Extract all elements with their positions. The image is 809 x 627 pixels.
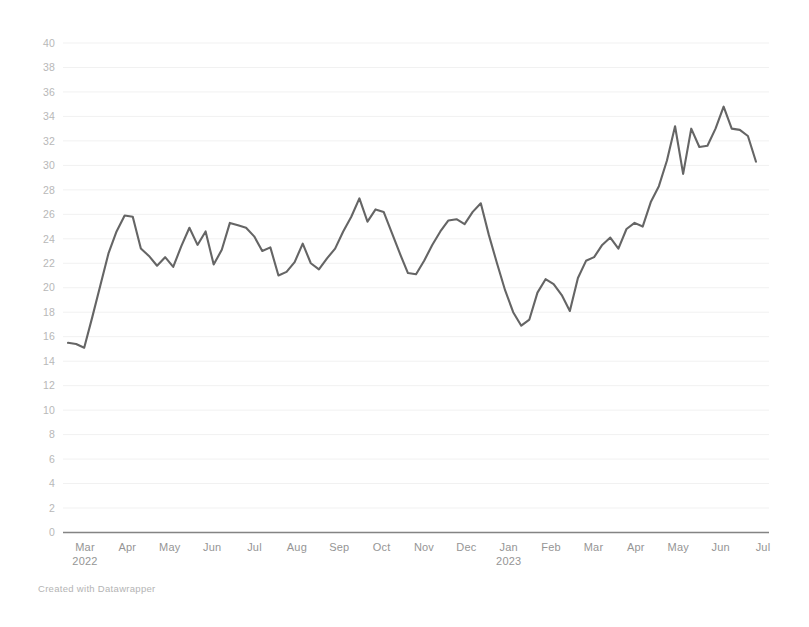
y-axis-tick-label: 40 [43,37,55,49]
datawrapper-credit: Created with Datawrapper [38,583,156,594]
y-axis-tick-label: 12 [43,379,55,391]
y-axis-tick-label: 30 [43,159,55,171]
x-axis-tick-label: Jun [711,541,729,553]
x-axis-tick-label: Apr [627,541,645,553]
y-axis-tick-labels: 0246810121416182022242628303234363840 [43,37,55,539]
y-axis-tick-label: 18 [43,306,55,318]
y-axis-tick-label: 10 [43,404,55,416]
x-axis-tick-label: Mar [75,541,95,553]
x-axis-tick-label: Dec [456,541,476,553]
y-axis-tick-label: 38 [43,61,55,73]
y-axis-tick-label: 6 [49,453,55,465]
x-axis-tick-label: Feb [541,541,561,553]
y-axis-tick-label: 14 [43,355,55,367]
y-axis-tick-label: 24 [43,233,55,245]
x-axis-tick-labels: Mar2022AprMayJunJulAugSepOctNovDecJan202… [72,541,770,567]
x-axis-tick-label: Nov [414,541,434,553]
x-axis-tick-label: Oct [373,541,391,553]
line-chart-svg: 0246810121416182022242628303234363840 Ma… [0,0,809,580]
data-series-line [68,107,756,348]
x-axis-tick-label: Apr [119,541,137,553]
x-axis-tick-label: May [668,541,690,553]
y-axis-tick-label: 22 [43,257,55,269]
x-axis-tick-label: Sep [329,541,349,553]
y-axis-tick-label: 32 [43,135,55,147]
x-axis-tick-label: Mar [584,541,604,553]
x-axis-year-label: 2022 [72,555,97,567]
x-axis-tick-label: Jul [247,541,262,553]
y-axis-tick-label: 26 [43,208,55,220]
y-axis-tick-label: 28 [43,184,55,196]
y-axis-tick-label: 34 [43,110,55,122]
x-axis-tick-label: May [159,541,181,553]
x-axis-tick-label: Jun [203,541,221,553]
x-axis-tick-label: Aug [287,541,307,553]
gridlines [63,43,769,508]
y-axis-tick-label: 8 [49,428,55,440]
y-axis-tick-label: 16 [43,330,55,342]
x-axis-tick-label: Jan [500,541,518,553]
x-axis-tick-label: Jul [756,541,771,553]
y-axis-tick-label: 36 [43,86,55,98]
chart-container: 0246810121416182022242628303234363840 Ma… [0,0,809,627]
plot-area: 0246810121416182022242628303234363840 Ma… [0,0,809,580]
y-axis-tick-label: 0 [49,526,55,538]
y-axis-tick-label: 20 [43,281,55,293]
x-axis-year-label: 2023 [496,555,521,567]
y-axis-tick-label: 4 [49,477,55,489]
y-axis-tick-label: 2 [49,502,55,514]
